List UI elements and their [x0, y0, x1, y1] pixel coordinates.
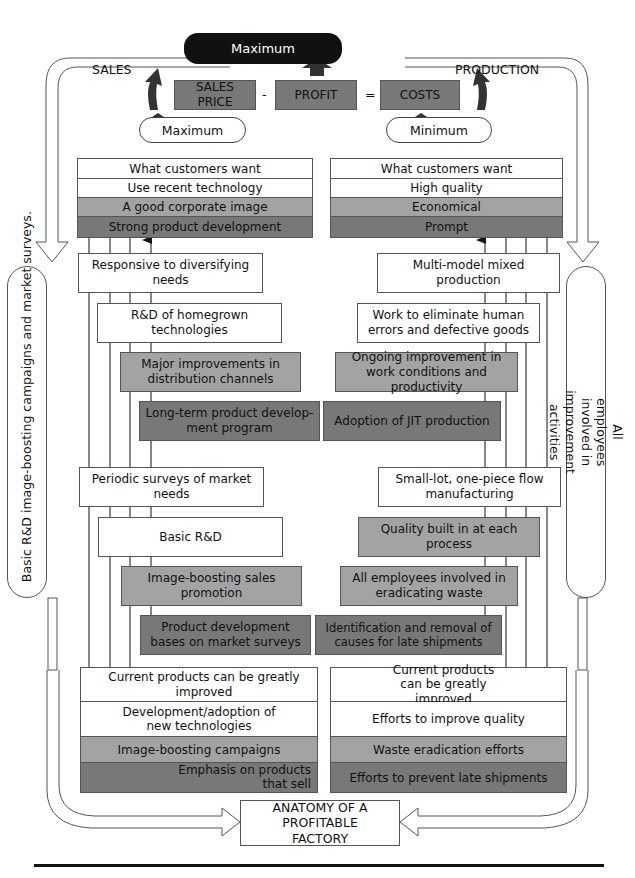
production-heading: PRODUCTION	[455, 62, 539, 77]
production-step-5: Small-lot, one-piece flow manufacturing	[378, 467, 561, 507]
production-base-2: Efforts to improve quality	[331, 702, 566, 737]
footer-title-box: ANATOMY OF A PROFITABLE FACTORY	[240, 800, 400, 846]
sales-goals-stack: What customers want Use recent technolog…	[77, 158, 313, 238]
left-side-text: Basic R&D image-boosting campaigns and m…	[19, 282, 35, 582]
sales-base-4: Emphasis on products that sell	[81, 763, 317, 792]
production-goal-3: Economical	[331, 198, 562, 217]
production-base-stack: Current products can be greatly improved…	[330, 667, 567, 793]
production-step-8: Identification and removal of causes for…	[315, 615, 502, 655]
production-step-6: Quality built in at each process	[358, 517, 540, 557]
sales-maximum-pill: Maximum	[139, 117, 246, 143]
sales-base-3: Image-boosting campaigns	[81, 737, 317, 763]
sales-step-4: Long-term product develop-ment program	[139, 401, 320, 441]
sales-goal-3: A good corporate image	[78, 198, 312, 217]
sales-base-stack: Current products can be greatly improved…	[80, 667, 318, 793]
equals-sign: =	[365, 87, 375, 102]
profit-maximum-badge: Maximum	[184, 33, 342, 64]
production-goal-1: What customers want	[331, 159, 562, 179]
costs-box: COSTS	[380, 80, 460, 110]
production-base-3: Waste eradication efforts	[331, 737, 566, 763]
right-side-capsule: All employees involved in improvement ac…	[566, 266, 606, 598]
sales-step-5: Periodic surveys of market needs	[79, 467, 264, 507]
sales-step-6: Basic R&D	[98, 517, 283, 557]
left-side-capsule: Basic R&D image-boosting campaigns and m…	[7, 266, 47, 598]
sales-step-1: Responsive to diversifying needs	[78, 253, 263, 293]
sales-base-2: Development/adoption of new technologies	[81, 702, 317, 737]
right-side-text: All employees involved in improvement ac…	[547, 390, 625, 474]
sales-step-3: Major improvements in distribution chann…	[120, 352, 301, 392]
profit-box: PROFIT	[275, 80, 357, 110]
sales-heading: SALES	[92, 62, 132, 77]
production-step-1: Multi-model mixed production	[377, 253, 560, 293]
production-step-7: All employees involved in eradicating wa…	[340, 566, 518, 606]
sales-step-8: Product development bases on market surv…	[140, 615, 311, 655]
sales-base-1: Current products can be greatly improved	[81, 668, 317, 702]
minus-sign: -	[262, 87, 267, 102]
costs-minimum-pill: Minimum	[386, 117, 492, 143]
sales-goal-1: What customers want	[78, 159, 312, 179]
sales-step-2: R&D of homegrown technologies	[97, 303, 282, 343]
sales-step-7: Image-boosting sales promotion	[121, 566, 302, 606]
production-base-4: Efforts to prevent late shipments	[331, 763, 566, 792]
sales-goal-4: Strong product development	[78, 217, 312, 237]
production-base-1: Current products can be greatly improved	[331, 668, 566, 702]
production-step-2: Work to eliminate human errors and defec…	[357, 303, 540, 343]
sales-price-box: SALES PRICE	[174, 80, 256, 110]
sales-goal-2: Use recent technology	[78, 179, 312, 198]
production-goal-2: High quality	[331, 179, 562, 198]
production-goal-4: Prompt	[331, 217, 562, 237]
bottom-rule	[34, 864, 604, 867]
production-goals-stack: What customers want High quality Economi…	[330, 158, 563, 238]
production-step-4: Adoption of JIT production	[323, 401, 501, 441]
production-step-3: Ongoing improvement in work conditions a…	[335, 352, 518, 392]
